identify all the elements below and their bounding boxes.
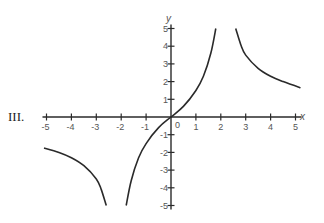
right-branch-curve: [236, 29, 301, 88]
y-tick-label: 3: [163, 59, 168, 69]
function-graph: III. -5-4-3-2-112345 54321-1-2-3-4-5 0 x…: [0, 0, 324, 223]
y-tick-label: -4: [160, 183, 168, 193]
x-tick-label: -1: [141, 122, 149, 132]
x-tick-labels: -5-4-3-2-112345: [42, 122, 299, 132]
x-tick-label: 1: [193, 122, 198, 132]
y-tick-label: 1: [163, 95, 168, 105]
figure-label: III.: [8, 109, 24, 124]
y-tick-label: 4: [163, 41, 168, 51]
y-tick-label: -1: [160, 130, 168, 140]
y-tick-label: 2: [163, 77, 168, 87]
x-tick-label: -4: [66, 122, 74, 132]
origin-label: 0: [175, 120, 180, 130]
x-tick-label: -3: [91, 122, 99, 132]
y-tick-label: -3: [160, 165, 168, 175]
x-tick-label: 2: [218, 122, 223, 132]
x-tick-label: 4: [268, 122, 273, 132]
y-tick-label: 5: [163, 24, 168, 34]
left-branch-curve: [44, 148, 106, 206]
x-tick-label: 5: [293, 122, 298, 132]
x-axis-label: x: [299, 111, 306, 122]
x-tick-label: -5: [42, 122, 50, 132]
y-tick-label: -5: [160, 201, 168, 211]
y-axis-label: y: [165, 13, 172, 24]
x-tick-label: -2: [116, 122, 124, 132]
y-tick-label: -2: [160, 148, 168, 158]
x-tick-label: 3: [243, 122, 248, 132]
